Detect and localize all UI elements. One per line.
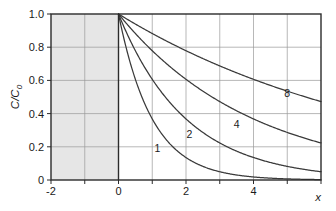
x-tick-label: 0 [115, 185, 121, 197]
x-tick-label: -2 [46, 185, 56, 197]
x-tick-label: 4 [250, 185, 256, 197]
y-tick-label: 1.0 [29, 8, 44, 20]
y-tick-label: 0.8 [29, 41, 44, 53]
y-tick-label: 0 [38, 174, 44, 186]
y-axis-label-subscript: 0 [15, 84, 24, 89]
y-tick-label: 0.4 [29, 108, 44, 120]
chart-figure: -2024 00.20.40.60.81.0 1248 x C/C0 [0, 0, 336, 211]
chart-svg: -2024 00.20.40.60.81.0 1248 x C/C0 [0, 0, 336, 211]
x-tick-label: 2 [183, 185, 189, 197]
curve-label-2: 2 [186, 128, 192, 140]
curve-label-4: 4 [234, 118, 240, 130]
curve-label-8: 8 [284, 87, 290, 99]
y-tick-label: 0.6 [29, 74, 44, 86]
y-tick-label: 0.2 [29, 141, 44, 153]
y-axis-label-base: C/C [9, 89, 21, 110]
curve-label-1: 1 [154, 142, 160, 154]
